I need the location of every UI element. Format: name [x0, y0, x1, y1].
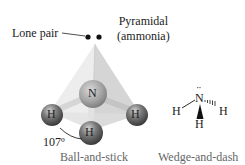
lone-pair-leader	[62, 33, 85, 36]
title-line2: (ammonia)	[117, 29, 170, 44]
title-line1: Pyramidal	[117, 14, 170, 29]
lone-pair-dot-right	[96, 34, 101, 39]
lone-pair-label: Lone pair	[12, 26, 58, 41]
hydrogen-label-front: H	[85, 125, 94, 140]
wedge-nitrogen-label: N	[195, 91, 204, 106]
lone-pair-dot-left	[85, 34, 90, 39]
bond-angle-label: 107º	[43, 135, 65, 150]
ball-and-stick-caption: Ball-and-stick	[60, 150, 128, 165]
nitrogen-label: N	[88, 86, 97, 101]
wedge-hydrogen-left: H	[172, 104, 181, 119]
hydrogen-label-left: H	[47, 107, 56, 122]
wedge-hydrogen-right: H	[219, 104, 228, 119]
hydrogen-label-right: H	[131, 107, 140, 122]
wedge-and-dash-caption: Wedge-and-dash	[158, 150, 238, 165]
molecule-title: Pyramidal (ammonia)	[117, 14, 170, 44]
wedge-hydrogen-bottom: H	[195, 117, 204, 132]
